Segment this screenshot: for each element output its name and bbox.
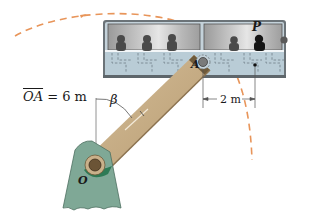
dimension-label: 2 m bbox=[219, 93, 242, 106]
diagram-canvas: OA = 6 m β A P O 2 m bbox=[0, 0, 322, 223]
passenger-6 bbox=[280, 36, 287, 43]
arm-length-label: OA = 6 m bbox=[23, 89, 87, 104]
point-o-label: O bbox=[78, 174, 88, 187]
pivot-o bbox=[85, 155, 105, 175]
oa-value: = 6 m bbox=[43, 89, 87, 104]
passenger-2 bbox=[142, 35, 152, 51]
beta-label: β bbox=[110, 92, 118, 107]
point-a-label: A bbox=[191, 58, 200, 71]
oa-symbol: OA bbox=[23, 89, 43, 104]
passenger-3 bbox=[167, 34, 177, 51]
passenger-1 bbox=[116, 35, 126, 51]
point-p-dot bbox=[253, 63, 257, 67]
point-p-label: P bbox=[252, 20, 261, 34]
